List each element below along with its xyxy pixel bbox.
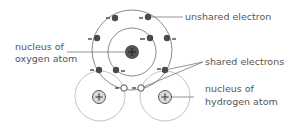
electron: [162, 67, 168, 73]
shared-electron: [121, 85, 127, 91]
label-hydrogen-nucleus-line2: hydrogen atom: [205, 96, 278, 107]
label-oxygen-nucleus-line2: oxygen atom: [15, 53, 77, 64]
label-unshared-electron: unshared electron: [185, 11, 271, 22]
shared-electron: [138, 85, 144, 91]
electron: [113, 67, 119, 73]
electron: [94, 35, 100, 41]
label-shared-electrons: shared electrons: [205, 56, 284, 67]
electron: [164, 35, 170, 41]
label-hydrogen-nucleus-line1: nucleus of: [205, 83, 255, 94]
water-molecule-diagram: unshared electron nucleus of oxygen atom…: [0, 0, 294, 127]
electron: [112, 15, 118, 21]
label-oxygen-nucleus-line1: nucleus of: [15, 41, 65, 52]
electron: [147, 35, 153, 41]
electron: [96, 67, 102, 73]
unshared-electron: [145, 14, 151, 20]
shared-electron-leader-2: [141, 62, 203, 88]
shared-electron-leader-1: [165, 62, 203, 70]
